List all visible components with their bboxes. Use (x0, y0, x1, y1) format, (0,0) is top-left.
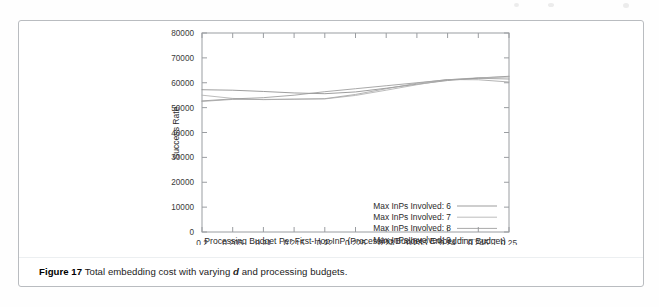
x-axis-title: Processing Budget Per First-Hop InP (Pro… (204, 236, 505, 245)
caption-number: Figure 17 (39, 266, 82, 277)
scan-edge-line (19, 257, 643, 258)
y-tick-label: 10000 (171, 203, 194, 212)
axis-frame (202, 33, 509, 232)
figure-caption: Figure 17 Total embedding cost with vary… (39, 265, 629, 278)
scan-artifact (623, 3, 629, 8)
data-series-group (202, 76, 509, 101)
y-tick-label: 70000 (171, 54, 194, 63)
legend-label-3: Max InPs Involved: 8 (373, 223, 451, 233)
x-axis-ticks (202, 33, 509, 232)
y-tick-label: 80000 (171, 29, 194, 38)
scanned-page: 0100002000030000400005000060000700008000… (0, 0, 659, 307)
figure-container: 0100002000030000400005000060000700008000… (18, 20, 644, 287)
legend-label-1: Max InPs Involved: 6 (373, 201, 451, 211)
chart-plot-area: 0100002000030000400005000060000700008000… (19, 21, 645, 245)
y-tick-label: 0 (189, 228, 194, 237)
y-axis-ticks (202, 33, 509, 232)
y-tick-label: 20000 (171, 178, 194, 187)
line-chart: 0100002000030000400005000060000700008000… (19, 21, 645, 245)
scan-artifact (548, 3, 554, 7)
caption-variable: d (233, 266, 239, 277)
legend-label-2: Max InPs Involved: 7 (373, 212, 451, 222)
y-axis-title: Success Rate (171, 106, 181, 159)
series-line-3 (202, 78, 509, 101)
caption-text: Total embedding cost with varying (85, 266, 231, 277)
y-tick-label: 60000 (171, 79, 194, 88)
caption-text-tail: and processing budgets. (242, 266, 348, 277)
scan-artifact (514, 3, 519, 7)
